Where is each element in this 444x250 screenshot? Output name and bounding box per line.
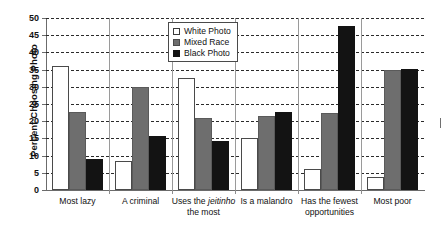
x-tick	[361, 190, 362, 194]
x-tick	[172, 190, 173, 194]
legend-item-black-photo: Black Photo	[173, 48, 231, 58]
bar-mixed-race	[384, 70, 401, 190]
bar-black-photo	[338, 26, 355, 190]
y-tick-label-50: 50	[29, 13, 39, 23]
legend-label-white-photo: White Photo	[184, 26, 231, 36]
legend-label-mixed-race: Mixed Race	[184, 37, 229, 47]
bar-black-photo	[275, 112, 292, 190]
y-tick-label-15: 15	[29, 133, 39, 143]
bar-mixed-race	[69, 112, 86, 190]
bar-group	[298, 18, 361, 190]
bar-black-photo	[212, 141, 229, 190]
y-tick-label-5: 5	[34, 168, 39, 178]
legend-item-white-photo: White Photo	[173, 26, 231, 36]
y-tick-label-30: 30	[29, 82, 39, 92]
bar-black-photo	[86, 159, 103, 190]
bar-black-photo	[401, 69, 418, 190]
bar-white-photo	[241, 138, 258, 190]
right-edge-mark	[440, 118, 441, 128]
y-tick-label-20: 20	[29, 116, 39, 126]
y-tick-label-25: 25	[29, 99, 39, 109]
bar-mixed-race	[321, 113, 338, 190]
x-tick	[109, 190, 110, 194]
x-tick	[298, 190, 299, 194]
bar-black-photo	[149, 136, 166, 190]
bar-white-photo	[52, 66, 69, 190]
bar-white-photo	[178, 78, 195, 190]
y-tick-label-0: 0	[34, 185, 39, 195]
y-tick-label-35: 35	[29, 65, 39, 75]
bar-white-photo	[367, 177, 384, 190]
y-tick-label-45: 45	[29, 30, 39, 40]
bar-white-photo	[115, 161, 132, 190]
y-tick-label-40: 40	[29, 47, 39, 57]
legend-label-black-photo: Black Photo	[184, 48, 230, 58]
bar-group	[361, 18, 424, 190]
bar-group	[46, 18, 109, 190]
bar-group	[235, 18, 298, 190]
bar-group	[109, 18, 172, 190]
x-axis-label: Most poor	[355, 196, 430, 207]
bar-mixed-race	[132, 87, 149, 190]
x-tick	[235, 190, 236, 194]
bar-chart: Percent Choosing Photo 05101520253035404…	[0, 0, 444, 250]
y-tick-0	[42, 190, 46, 191]
y-tick-label-10: 10	[29, 151, 39, 161]
chart-legend: White Photo Mixed Race Black Photo	[168, 22, 238, 62]
legend-item-mixed-race: Mixed Race	[173, 37, 231, 47]
legend-swatch-mixed-race	[173, 39, 180, 46]
bar-mixed-race	[258, 116, 275, 190]
legend-swatch-black-photo	[173, 50, 180, 57]
bar-mixed-race	[195, 118, 212, 190]
legend-swatch-white-photo	[173, 28, 180, 35]
bar-white-photo	[304, 169, 321, 190]
